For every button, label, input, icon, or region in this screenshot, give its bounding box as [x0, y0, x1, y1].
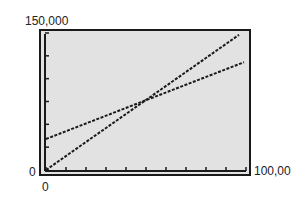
y-axis-min-label: 0	[29, 166, 36, 178]
plot-frame-outer	[40, 30, 250, 175]
chart	[0, 0, 293, 202]
x-axis-min-label: 0	[42, 181, 49, 193]
y-axis-max-label: 150,000	[25, 15, 68, 27]
x-axis-max-label: 100,00	[254, 165, 291, 177]
